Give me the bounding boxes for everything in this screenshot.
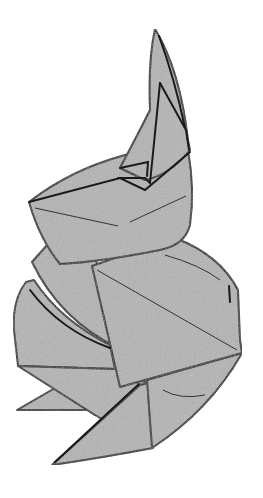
- origami-rabbit-illustration: [0, 0, 263, 498]
- square-right-edge: [229, 286, 230, 302]
